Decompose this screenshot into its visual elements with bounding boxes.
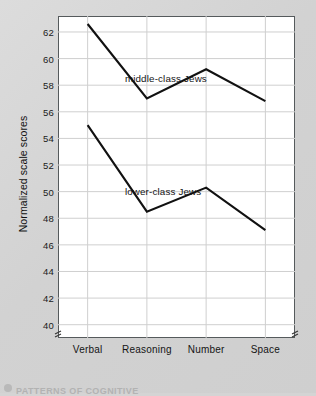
y-tick-label: 58 <box>43 80 54 91</box>
y-tick-label: 54 <box>43 133 54 144</box>
series-line <box>88 125 266 230</box>
plot-area <box>58 16 295 338</box>
series-label-middle-class: middle-class Jews <box>125 73 207 84</box>
axis-break-mark <box>290 324 300 340</box>
x-tick-label: Number <box>188 344 225 355</box>
y-tick-label: 46 <box>43 239 54 250</box>
y-axis-title: Normalized scale scores <box>17 79 29 269</box>
y-tick-label: 60 <box>43 53 54 64</box>
y-tick-label: 50 <box>43 186 54 197</box>
caption-bullet-icon <box>4 384 12 392</box>
y-tick-label: 44 <box>43 266 54 277</box>
y-tick-label: 56 <box>43 106 54 117</box>
y-tick-label: 62 <box>43 26 54 37</box>
y-tick-label: 52 <box>43 160 54 171</box>
x-tick-label: Reasoning <box>122 344 172 355</box>
series-label-lower-class: lower-class Jews <box>125 186 201 197</box>
x-tick-label: Verbal <box>73 344 103 355</box>
series-line <box>88 24 266 101</box>
figure-caption: PATTERNS OF COGNITIVE <box>16 386 139 396</box>
chart-svg <box>58 16 295 338</box>
y-tick-label: 48 <box>43 213 54 224</box>
y-tick-label: 42 <box>43 293 54 304</box>
axis-break-mark <box>53 324 63 340</box>
x-tick-label: Space <box>251 344 280 355</box>
